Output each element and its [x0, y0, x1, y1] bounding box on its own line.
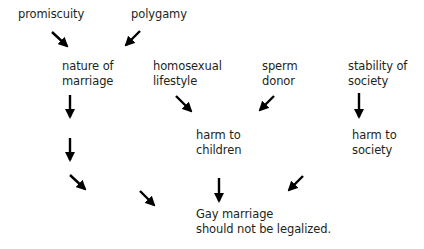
- arrow-down-right-icon: [52, 32, 67, 46]
- arrow-down-right-icon: [176, 96, 191, 111]
- arrow-down-left-icon: [260, 96, 274, 110]
- arrow-down-right-icon: [70, 175, 85, 189]
- arrow-down-left-icon: [289, 176, 303, 190]
- arrows-layer: [0, 0, 424, 249]
- arrow-down-right-icon: [140, 191, 154, 205]
- arrow-down-left-icon: [126, 31, 140, 45]
